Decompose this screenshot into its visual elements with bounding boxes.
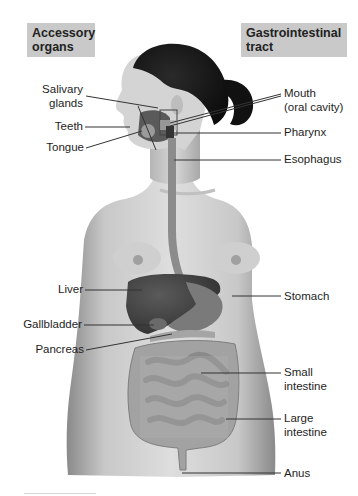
label-pancreas: Pancreas (35, 343, 84, 357)
gallbladder-shape (149, 318, 167, 330)
header-line: organs (32, 40, 90, 54)
label-liver: Liver (58, 283, 83, 297)
label-esophagus: Esophagus (284, 153, 342, 167)
divider (24, 493, 96, 494)
header-line: Gastrointestinal (246, 26, 342, 40)
label-teeth: Teeth (55, 120, 83, 134)
label-pharynx: Pharynx (284, 126, 326, 140)
label-large-intestine: Large intestine (284, 412, 327, 439)
header-line: tract (246, 40, 342, 54)
label-small-intestine: Small intestine (284, 366, 327, 393)
label-gallbladder: Gallbladder (23, 318, 82, 332)
label-anus: Anus (284, 467, 310, 481)
digestive-system-diagram: Accessory organs Gastrointestinal tract … (0, 0, 358, 496)
label-tongue: Tongue (46, 141, 84, 155)
gastrointestinal-tract-header: Gastrointestinal tract (241, 23, 347, 57)
label-salivary-glands: Salivary glands (42, 83, 83, 110)
header-line: Accessory (32, 26, 90, 40)
accessory-organs-header: Accessory organs (27, 23, 95, 57)
label-stomach: Stomach (284, 290, 329, 304)
label-mouth: Mouth (oral cavity) (284, 87, 343, 114)
head (116, 44, 253, 150)
